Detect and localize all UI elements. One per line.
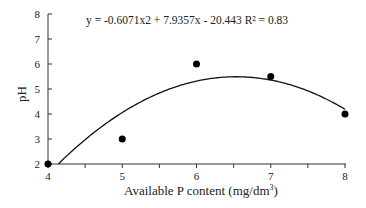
x-ticks: 45678 xyxy=(45,164,348,182)
y-tick-label: 3 xyxy=(35,133,41,145)
data-point xyxy=(342,111,349,118)
y-tick-label: 2 xyxy=(35,158,41,170)
data-point xyxy=(45,161,52,168)
equation-label: y = -0.6071x2 + 7.9357x - 20.443 R² = 0.… xyxy=(86,14,288,27)
data-point xyxy=(119,136,126,143)
data-point xyxy=(193,61,200,68)
x-tick-label: 7 xyxy=(268,170,274,182)
x-tick-label: 4 xyxy=(45,170,51,182)
data-point xyxy=(267,73,274,80)
y-tick-label: 4 xyxy=(35,108,41,120)
trendline xyxy=(58,77,345,164)
x-axis-title: Available P content (mg/dm3) xyxy=(124,183,278,198)
y-tick-label: 6 xyxy=(35,58,41,70)
data-points xyxy=(45,61,349,168)
y-ticks: 2345678 xyxy=(35,8,53,170)
chart: 2345678 45678 y = -0.6071x2 + 7.9357x - … xyxy=(0,0,366,208)
y-tick-label: 7 xyxy=(35,33,41,45)
y-axis-title: pH xyxy=(14,86,29,102)
y-tick-label: 5 xyxy=(35,83,41,95)
x-tick-label: 8 xyxy=(342,170,348,182)
x-tick-label: 6 xyxy=(194,170,200,182)
y-tick-label: 8 xyxy=(35,8,41,20)
x-tick-label: 5 xyxy=(120,170,126,182)
